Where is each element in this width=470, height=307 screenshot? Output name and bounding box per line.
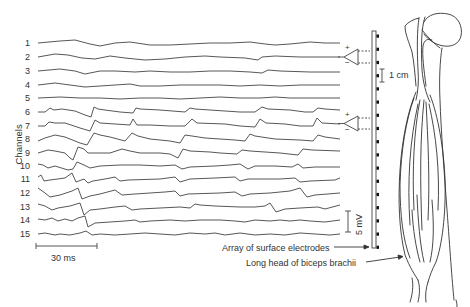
distance-scale-bar bbox=[380, 69, 385, 82]
emg-trace-channel-3 bbox=[38, 69, 340, 74]
channel-label-1: 1 bbox=[10, 38, 30, 48]
emg-trace-channel-15 bbox=[38, 231, 340, 235]
electrode-dot-icon bbox=[377, 140, 380, 143]
amp1-minus-sign: − bbox=[345, 58, 350, 68]
emg-trace-channel-6 bbox=[38, 107, 340, 117]
emg-traces bbox=[38, 40, 340, 235]
muscle-label: Long head of biceps brachii bbox=[246, 258, 356, 268]
electrode-array-arrow bbox=[334, 245, 369, 249]
amp2-plus-sign: + bbox=[345, 110, 350, 120]
muscle-arrow bbox=[366, 255, 403, 262]
electrode-dot-icon bbox=[377, 233, 380, 236]
voltage-scale-bar bbox=[345, 211, 351, 232]
time-scale-bar bbox=[36, 243, 97, 249]
channel-label-15: 15 bbox=[10, 229, 30, 239]
electrode-dot-icon bbox=[377, 219, 380, 222]
emg-trace-channel-12 bbox=[38, 188, 340, 199]
channel-label-11: 11 bbox=[10, 174, 30, 184]
electrode-dot-icon bbox=[377, 35, 380, 38]
amp1-plus-sign: + bbox=[345, 43, 350, 53]
channel-label-5: 5 bbox=[10, 93, 30, 103]
emg-trace-channel-9 bbox=[38, 147, 340, 160]
channel-label-2: 2 bbox=[10, 52, 30, 62]
emg-trace-channel-10 bbox=[38, 162, 340, 170]
electrode-dot-icon bbox=[377, 180, 380, 183]
emg-trace-channel-14 bbox=[38, 216, 340, 227]
time-scale-label: 30 ms bbox=[51, 253, 76, 263]
emg-trace-channel-1 bbox=[38, 40, 340, 46]
channels-axis-title: Channels bbox=[13, 125, 24, 165]
emg-trace-channel-8 bbox=[38, 133, 340, 145]
emg-trace-channel-7 bbox=[38, 118, 340, 131]
channel-label-3: 3 bbox=[10, 66, 30, 76]
voltage-scale-label: 5 mV bbox=[354, 214, 364, 235]
emg-trace-channel-13 bbox=[38, 203, 340, 215]
channel-label-6: 6 bbox=[10, 107, 30, 117]
distance-scale-label: 1 cm bbox=[389, 70, 409, 80]
emg-trace-channel-2 bbox=[38, 54, 340, 60]
electrode-dot-icon bbox=[377, 87, 380, 90]
electrode-strip bbox=[372, 31, 376, 248]
electrode-dot-icon bbox=[377, 246, 380, 249]
biceps-humerus-drawing bbox=[399, 13, 461, 307]
electrode-dot-icon bbox=[377, 114, 380, 117]
emg-trace-channel-4 bbox=[38, 83, 340, 87]
electrode-dot-icon bbox=[377, 153, 380, 156]
channel-label-14: 14 bbox=[10, 215, 30, 225]
channel-label-4: 4 bbox=[10, 80, 30, 90]
emg-figure: 123456789101112131415 Channels 30 ms 1 c… bbox=[0, 0, 470, 307]
differential-amplifiers bbox=[338, 49, 370, 131]
electrode-dot-icon bbox=[377, 206, 380, 209]
electrode-dot-icon bbox=[377, 61, 380, 64]
electrode-array-label: Array of surface electrodes bbox=[222, 243, 330, 253]
emg-trace-channel-5 bbox=[38, 97, 340, 99]
channel-label-13: 13 bbox=[10, 202, 30, 212]
humeral-head-icon bbox=[424, 13, 461, 46]
electrode-dot-icon bbox=[377, 167, 380, 170]
electrode-array bbox=[372, 31, 379, 249]
electrode-dot-icon bbox=[377, 193, 380, 196]
electrode-dot-icon bbox=[377, 101, 380, 104]
channel-label-12: 12 bbox=[10, 188, 30, 198]
amp2-minus-sign: − bbox=[345, 125, 350, 135]
emg-trace-channel-11 bbox=[38, 173, 340, 183]
electrode-dot-icon bbox=[377, 48, 380, 51]
electrode-dot-icon bbox=[377, 127, 380, 130]
electrode-dot-icon bbox=[377, 74, 380, 77]
